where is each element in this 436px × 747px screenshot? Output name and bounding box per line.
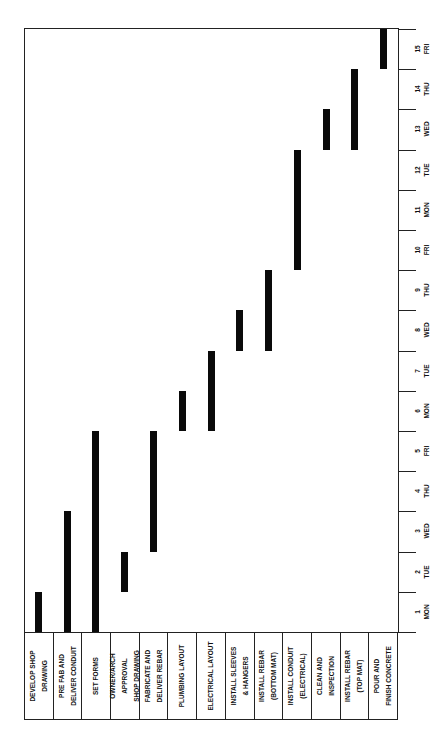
task-bar [294,150,301,271]
task-label-line: & HANGERS [240,647,252,706]
task-bar [64,511,71,632]
day-label: 10FRI [402,230,436,270]
task-label-line: CLEAN AND [314,656,326,696]
day-name: WED [422,122,431,137]
task-label-line: INSPECTION [326,656,338,696]
day-name: TUE [422,163,431,176]
day-label: 9THU [402,270,436,310]
task-label: PLUMBING LAYOUT [168,633,197,719]
day-number: 7 [413,364,422,377]
day-name: FRI [422,44,431,54]
task-label-line: (TOP MAT) [354,650,366,702]
day-number: 9 [413,284,422,297]
day-number: 11 [413,202,422,217]
task-bar [121,552,128,592]
task-label-line: INSTALL CONDUIT [285,647,297,705]
day-name: WED [422,323,431,338]
task-bar [265,270,272,350]
task-label: PRE FAB ANDDELIVER CONDUIT [54,633,83,719]
task-label-line: DELIVER REBAR [154,649,166,702]
day-label: 6MON [402,391,436,431]
day-number: 5 [413,446,422,456]
task-label-line: SET FORMS [90,657,102,695]
task-label-line: INSTALL REBAR [256,650,268,702]
task-label-line: PLUMBING LAYOUT [176,645,188,708]
day-tick [398,632,416,633]
day-number: 8 [413,323,422,338]
day-label: 11MON [402,190,436,230]
task-label-line: FABRICATE AND [142,649,154,702]
day-number: 1 [413,604,422,619]
task-bar [179,391,186,431]
day-number: 3 [413,524,422,539]
day-name: FRI [422,446,431,456]
day-name: THU [422,83,431,96]
task-label-line: (ELECTRICAL) [297,647,309,705]
task-label: DEVELOP SHOPDRAWING [25,633,54,719]
day-label: 4THU [402,471,436,511]
task-bar [35,592,42,632]
day-number: 13 [413,122,422,137]
task-label-line: DEVELOP SHOP [27,650,39,701]
task-label: FABRICATE ANDDELIVER REBAR [140,633,169,719]
task-label-line: FINISH CONCRETE [383,646,395,706]
day-name: TUE [422,364,431,377]
task-label: INSTALL SLEEVES& HANGERS [226,633,255,719]
day-label: 14THU [402,69,436,109]
task-bar [236,310,243,350]
day-name: FRI [422,245,431,255]
task-label-line: (BOTTOM MAT) [268,650,280,702]
day-name: WED [422,524,431,539]
task-bar [323,109,330,149]
task-bar [92,431,99,632]
day-name: THU [422,284,431,297]
task-label-line: POUR AND [371,646,383,706]
day-label: 5FRI [402,431,436,471]
day-name: MON [422,403,431,418]
day-number: 15 [413,44,422,54]
day-label: 3WED [402,511,436,551]
day-name: TUE [422,565,431,578]
task-label-table: DEVELOP SHOPDRAWINGPRE FAB ANDDELIVER CO… [24,632,398,720]
day-label: 2TUE [402,552,436,592]
task-bar [351,69,358,149]
task-label-line: OWNER/ARCH [107,650,119,702]
task-label: INSTALL REBAR(TOP MAT) [341,633,370,719]
task-label-line: DELIVER CONDUIT [68,646,80,706]
day-number: 2 [413,565,422,578]
day-name: MON [422,202,431,217]
day-axis-line [398,28,399,632]
task-label: INSTALL REBAR(BOTTOM MAT) [255,633,284,719]
task-label-line: ELECTRICAL LAYOUT [205,642,217,711]
day-name: THU [422,485,431,498]
task-label: ELECTRICAL LAYOUT [197,633,226,719]
day-label: 1MON [402,592,436,632]
task-bar [208,351,215,431]
task-label: CLEAN ANDINSPECTION [312,633,341,719]
task-bar [150,431,157,552]
task-label-line: APPROVAL [119,650,131,702]
task-label-line: INSTALL SLEEVES [228,647,240,706]
task-label-line: INSTALL REBAR [342,650,354,702]
day-label: 12TUE [402,150,436,190]
task-label-line: PRE FAB AND [56,646,68,706]
chart-frame [24,28,399,633]
day-number: 6 [413,403,422,418]
day-label: 8WED [402,310,436,350]
task-bar [380,29,387,69]
day-number: 14 [413,83,422,96]
task-label: INSTALL CONDUIT(ELECTRICAL) [283,633,312,719]
task-label: OWNER/ARCHAPPROVALSHOP DRAWING [111,633,140,719]
task-label-line: DRAWING [39,650,51,701]
day-label: 13WED [402,109,436,149]
day-number: 12 [413,163,422,176]
day-number: 10 [413,245,422,255]
day-label: 15FRI [402,29,436,69]
day-name: MON [422,604,431,619]
task-label: POUR ANDFINISH CONCRETE [369,633,397,719]
day-number: 4 [413,485,422,498]
day-label: 7TUE [402,351,436,391]
